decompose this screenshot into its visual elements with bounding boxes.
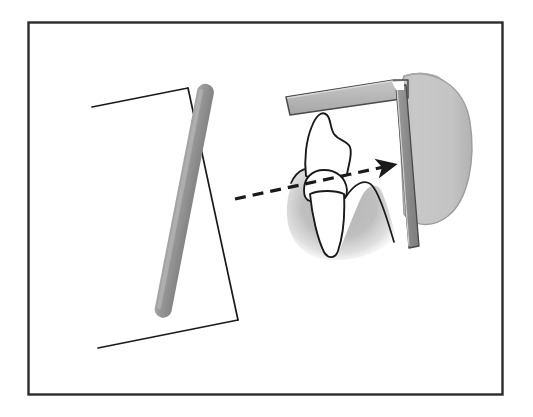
dental-radiography-diagram bbox=[0, 0, 533, 417]
figure-root: Dental radiograph paralleling technique … bbox=[0, 0, 533, 417]
